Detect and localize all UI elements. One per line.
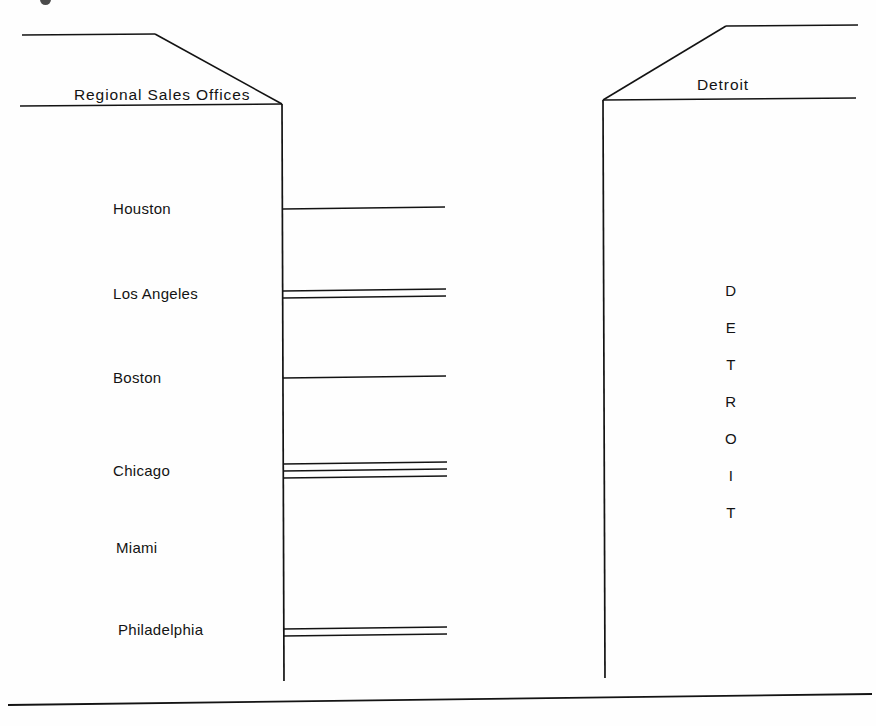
detroit-letter-2: E — [720, 320, 742, 335]
office-label-miami: Miami — [116, 540, 158, 555]
ticks-philadelphia — [283, 627, 447, 636]
right-banner-bottom-edge — [603, 98, 856, 100]
ticks-chicago — [283, 462, 447, 478]
office-label-los-angeles: Los Angeles — [113, 286, 198, 301]
diagram-linework — [0, 0, 876, 726]
diagram-canvas: Regional Sales Offices Houston Los Angel… — [0, 0, 876, 726]
detroit-letter-5: O — [720, 431, 742, 446]
office-label-philadelphia: Philadelphia — [118, 622, 203, 637]
detroit-letter-1: D — [720, 283, 742, 298]
ticks-houston — [283, 207, 445, 209]
left-banner-label: Regional Sales Offices — [74, 87, 250, 103]
detroit-letter-7: T — [720, 505, 742, 520]
left-banner-top-edge — [22, 34, 155, 35]
left-spine-line — [282, 104, 284, 681]
detroit-letter-6: I — [720, 468, 742, 483]
right-banner-label: Detroit — [697, 77, 749, 93]
office-label-chicago: Chicago — [113, 463, 170, 478]
right-spine-line — [603, 100, 605, 678]
left-banner-bottom-edge — [20, 104, 282, 106]
ticks-los-angeles — [283, 289, 446, 298]
ticks-boston — [283, 376, 446, 378]
detroit-letter-3: T — [720, 357, 742, 372]
office-label-boston: Boston — [113, 370, 162, 385]
right-banner-top-edge — [726, 25, 858, 26]
detroit-letter-4: R — [720, 394, 742, 409]
bottom-rule — [8, 694, 872, 705]
office-label-houston: Houston — [113, 201, 171, 216]
